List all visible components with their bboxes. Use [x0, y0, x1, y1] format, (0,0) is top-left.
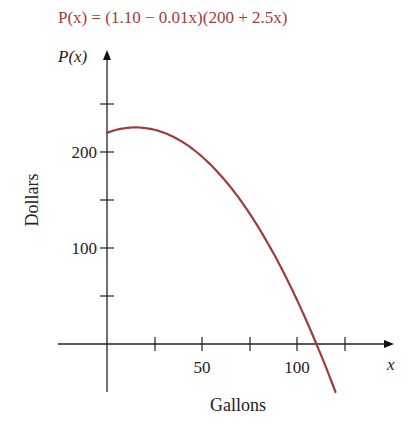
x-tick-label-50: 50	[194, 358, 211, 377]
y-axis-label: Dollars	[22, 174, 42, 227]
y-tick-label-100: 100	[72, 239, 98, 258]
x-tick-label-100: 100	[284, 358, 310, 377]
series-line-p-of-x	[107, 127, 336, 392]
chart-plot: 50 100 200 100 P(x) x Dollars Gallons	[0, 0, 420, 436]
x-axis-name: x	[386, 355, 395, 374]
y-axis-name: P(x)	[57, 47, 88, 66]
x-axis-label: Gallons	[210, 395, 266, 415]
y-tick-label-200: 200	[72, 143, 98, 162]
